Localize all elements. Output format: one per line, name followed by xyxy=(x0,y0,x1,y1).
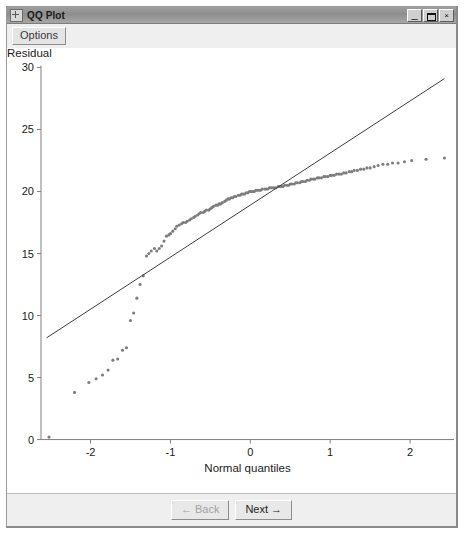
data-point xyxy=(381,163,384,166)
y-tick-label: 10 xyxy=(22,310,34,322)
data-point xyxy=(356,169,359,172)
data-point xyxy=(125,346,128,349)
data-point xyxy=(403,160,406,163)
y-tick-label: 30 xyxy=(22,61,34,73)
y-tick-label: 5 xyxy=(28,372,34,384)
data-point xyxy=(353,169,356,172)
data-point xyxy=(135,297,138,300)
qq-plot-window: QQ Plot _ × Options 051015202530-2-1012 … xyxy=(6,6,458,528)
data-point xyxy=(169,232,172,235)
reference-line xyxy=(47,79,445,338)
reference-line-layer xyxy=(47,79,445,338)
data-point xyxy=(410,159,413,162)
data-point xyxy=(150,249,153,252)
data-point xyxy=(116,357,119,360)
data-point xyxy=(87,381,90,384)
data-point xyxy=(111,359,114,362)
data-point xyxy=(369,166,372,169)
axis-layer: 051015202530-2-1012 xyxy=(22,61,454,457)
app-icon xyxy=(10,9,23,22)
data-point xyxy=(101,374,104,377)
data-point xyxy=(424,158,427,161)
data-points-layer xyxy=(47,156,446,438)
y-tick-label: 0 xyxy=(28,434,34,446)
x-tick-label: -1 xyxy=(166,446,176,458)
options-button[interactable]: Options xyxy=(12,27,66,45)
next-button[interactable]: Next → xyxy=(235,500,292,520)
data-point xyxy=(359,168,362,171)
data-point xyxy=(145,254,148,257)
x-tick-label: 0 xyxy=(247,446,253,458)
data-point xyxy=(373,165,376,168)
data-point xyxy=(139,283,142,286)
data-point xyxy=(345,171,348,174)
data-point xyxy=(377,164,380,167)
y-tick-label: 15 xyxy=(22,248,34,260)
minimize-icon[interactable]: _ xyxy=(407,9,422,22)
maximize-glyph xyxy=(424,10,437,21)
toolbar: Options xyxy=(7,24,456,48)
window-title-bar[interactable]: QQ Plot _ × xyxy=(7,7,456,24)
y-tick-label: 20 xyxy=(22,185,34,197)
data-point xyxy=(362,168,365,171)
data-point xyxy=(158,247,161,250)
data-point xyxy=(95,377,98,380)
y-axis-title: Residual xyxy=(7,48,52,59)
y-tick-label: 25 xyxy=(22,123,34,135)
data-point xyxy=(121,349,124,352)
data-point xyxy=(132,311,135,314)
close-icon[interactable]: × xyxy=(439,9,454,22)
x-tick-label: -2 xyxy=(86,446,96,458)
close-glyph: × xyxy=(440,10,453,21)
qq-plot-svg: 051015202530-2-1012 Normal quantilesResi… xyxy=(7,48,457,481)
axis-label-layer: Normal quantilesResidual xyxy=(7,48,291,474)
back-button[interactable]: ← Back xyxy=(171,500,230,520)
window-title: QQ Plot xyxy=(27,10,406,21)
data-point xyxy=(160,245,163,248)
data-point xyxy=(73,391,76,394)
data-point xyxy=(47,436,50,439)
data-point xyxy=(155,249,158,252)
data-point xyxy=(386,163,389,166)
x-tick-label: 1 xyxy=(327,446,333,458)
data-point xyxy=(171,230,174,233)
minimize-glyph: _ xyxy=(408,10,421,21)
wizard-footer: ← Back Next → xyxy=(7,494,456,526)
data-point xyxy=(147,252,150,255)
data-point xyxy=(443,156,446,159)
data-point xyxy=(391,161,394,164)
data-point xyxy=(107,369,110,372)
data-point xyxy=(162,240,165,243)
data-point xyxy=(365,166,368,169)
data-point xyxy=(129,319,132,322)
x-tick-label: 2 xyxy=(407,446,413,458)
data-point xyxy=(153,247,156,250)
qq-plot-chart: 051015202530-2-1012 Normal quantilesResi… xyxy=(7,48,456,494)
data-point xyxy=(397,161,400,164)
x-axis-title: Normal quantiles xyxy=(204,462,291,474)
maximize-icon[interactable] xyxy=(423,9,438,22)
